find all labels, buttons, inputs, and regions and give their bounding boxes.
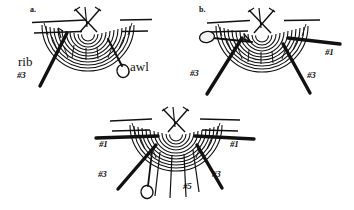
basketry-technique-figure xyxy=(0,0,354,210)
rib-number-label-right-lower: #3 xyxy=(307,71,315,80)
rib-line-upper xyxy=(32,20,86,23)
panel-b-drawing xyxy=(199,8,340,94)
awl-shaft xyxy=(148,152,152,186)
rib-line-lower-left xyxy=(112,130,150,131)
panel-a-drawing xyxy=(32,7,152,86)
rib-number-label-left-upper: #1 xyxy=(99,140,107,149)
rib-number-label-right-upper: #1 xyxy=(230,140,238,149)
rib-line-right-upper xyxy=(284,20,320,21)
rib-1-left-stroke xyxy=(96,136,158,138)
rib-1-right-stroke xyxy=(195,136,254,139)
rib-line-right-upper xyxy=(120,20,152,21)
rib-line-upper xyxy=(207,21,250,24)
panel-a-label: a. xyxy=(30,6,36,14)
panel-b-label: b. xyxy=(199,6,205,14)
rib-number-label-left: #3 xyxy=(190,69,198,78)
awl-label: awl xyxy=(130,60,149,73)
spoke-thin-4 xyxy=(193,150,199,192)
rib-line-upper-right xyxy=(200,119,240,120)
rib-line-lower xyxy=(210,31,248,32)
rib-number-label-right-upper: #1 xyxy=(325,48,333,57)
rib-number-label: #3 xyxy=(17,71,25,80)
rib-line-lower-right xyxy=(202,130,238,131)
awl-handle-loop xyxy=(140,185,154,200)
rib-label: rib xyxy=(18,55,32,68)
rib-number-label-right-lower: #3 xyxy=(212,170,220,179)
rib-number-label-left-lower: #3 xyxy=(98,170,106,179)
panel-c-drawing xyxy=(96,107,254,199)
awl-handle-loop xyxy=(115,63,131,79)
rib-line-upper-left xyxy=(110,119,152,121)
rib-number-label-center: #5 xyxy=(183,182,191,191)
